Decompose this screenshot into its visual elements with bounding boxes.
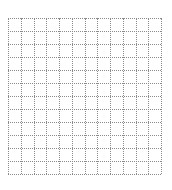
grid-vertical-line: [161, 18, 162, 174]
grid-horizontal-line: [8, 31, 161, 32]
grid-horizontal-line: [8, 57, 161, 58]
grid-horizontal-line: [8, 44, 161, 45]
dotted-grid: [8, 18, 161, 174]
grid-horizontal-line: [8, 83, 161, 84]
grid-horizontal-line: [8, 70, 161, 71]
grid-horizontal-line: [8, 109, 161, 110]
grid-horizontal-line: [8, 135, 161, 136]
grid-horizontal-line: [8, 122, 161, 123]
grid-horizontal-line: [8, 161, 161, 162]
grid-horizontal-line: [8, 174, 161, 175]
grid-horizontal-line: [8, 148, 161, 149]
grid-horizontal-line: [8, 96, 161, 97]
grid-horizontal-line: [8, 18, 161, 19]
